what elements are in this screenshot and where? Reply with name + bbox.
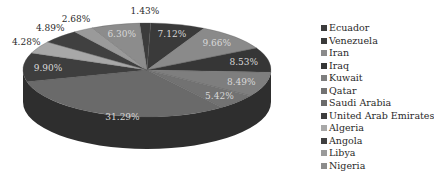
chart-legend: Ecuador Venezuela Iran Iraq Kuwait Qatar… bbox=[321, 22, 434, 172]
pie-data-label: 9.90% bbox=[34, 63, 63, 73]
pie-data-label: 31.29% bbox=[105, 112, 140, 122]
legend-swatch-icon bbox=[321, 150, 327, 156]
legend-item-algeria: Algeria bbox=[321, 122, 434, 135]
legend-label: Venezuela bbox=[329, 35, 378, 48]
pie-data-label: 2.68% bbox=[62, 14, 91, 24]
legend-label: Nigeria bbox=[329, 160, 365, 173]
pie-chart: 1.43%7.12%9.66%8.53%8.49%5.42%31.29%9.90… bbox=[0, 0, 290, 186]
legend-label: Ecuador bbox=[329, 22, 369, 35]
legend-swatch-icon bbox=[321, 88, 327, 94]
legend-swatch-icon bbox=[321, 100, 327, 106]
pie-data-label: 7.12% bbox=[158, 29, 187, 39]
legend-item-iraq: Iraq bbox=[321, 60, 434, 73]
legend-item-venezuela: Venezuela bbox=[321, 35, 434, 48]
legend-swatch-icon bbox=[321, 113, 327, 119]
legend-label: Iran bbox=[329, 47, 349, 60]
legend-item-nigeria: Nigeria bbox=[321, 160, 434, 173]
pie-data-label: 5.42% bbox=[205, 91, 234, 101]
legend-item-iran: Iran bbox=[321, 47, 434, 60]
legend-label: Qatar bbox=[329, 85, 356, 98]
legend-item-saudi-arabia: Saudi Arabia bbox=[321, 97, 434, 110]
legend-item-libya: Libya bbox=[321, 147, 434, 160]
legend-label: Algeria bbox=[329, 122, 364, 135]
legend-swatch-icon bbox=[321, 125, 327, 131]
legend-swatch-icon bbox=[321, 38, 327, 44]
legend-label: United Arab Emirates bbox=[329, 110, 434, 123]
legend-label: Saudi Arabia bbox=[329, 97, 391, 110]
legend-label: Libya bbox=[329, 147, 355, 160]
pie-data-label: 6.30% bbox=[107, 29, 136, 39]
pie-data-label: 1.43% bbox=[131, 6, 160, 16]
pie-data-label: 4.28% bbox=[12, 37, 41, 47]
legend-swatch-icon bbox=[321, 63, 327, 69]
legend-swatch-icon bbox=[321, 163, 327, 169]
legend-label: Kuwait bbox=[329, 72, 363, 85]
legend-item-kuwait: Kuwait bbox=[321, 72, 434, 85]
legend-item-qatar: Qatar bbox=[321, 85, 434, 98]
legend-label: Iraq bbox=[329, 60, 349, 73]
legend-item-angola: Angola bbox=[321, 135, 434, 148]
legend-label: Angola bbox=[329, 135, 362, 148]
legend-swatch-icon bbox=[321, 25, 327, 31]
legend-item-ecuador: Ecuador bbox=[321, 22, 434, 35]
pie-data-label: 9.66% bbox=[203, 38, 232, 48]
pie-data-label: 8.49% bbox=[227, 77, 256, 87]
legend-swatch-icon bbox=[321, 75, 327, 81]
legend-swatch-icon bbox=[321, 50, 327, 56]
legend-swatch-icon bbox=[321, 138, 327, 144]
legend-item-uae: United Arab Emirates bbox=[321, 110, 434, 123]
pie-data-label: 8.53% bbox=[230, 57, 259, 67]
pie-data-label: 4.89% bbox=[36, 23, 65, 33]
